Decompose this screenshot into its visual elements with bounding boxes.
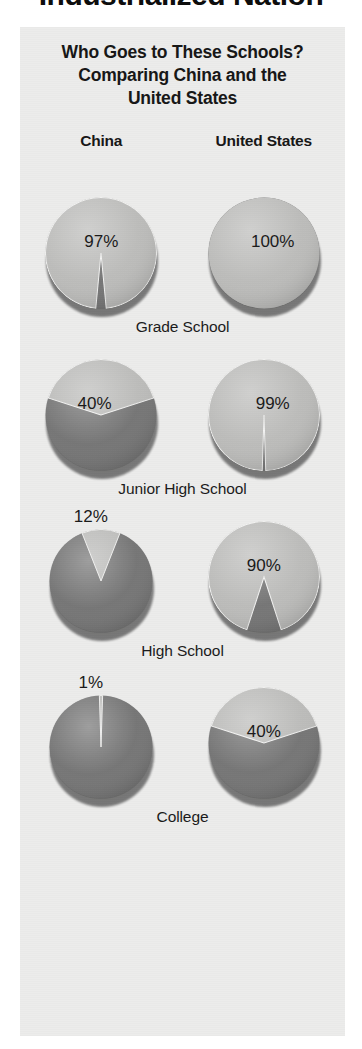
- pie-percent-label: 40%: [247, 722, 281, 742]
- pie-chart-china: 1%: [49, 695, 153, 799]
- pie-disc: [45, 359, 157, 471]
- pie-cell-usa: 99%: [189, 327, 339, 477]
- pie-chart-china: 40%: [45, 359, 157, 471]
- panel-title-line-1: Who Goes to These Schools?: [20, 41, 345, 64]
- pie-percent-label: 100%: [251, 232, 294, 252]
- pie-row: 40%99%Junior High School: [20, 327, 345, 498]
- pie-row: 97%100%Grade School: [20, 165, 345, 336]
- pie-disc: [208, 359, 320, 471]
- pie-disc: [49, 529, 153, 633]
- column-header-china: China: [20, 132, 183, 150]
- pie-disc: [208, 687, 320, 799]
- pie-percent-label: 12%: [74, 507, 108, 527]
- pie-percent-label: 1%: [79, 673, 104, 693]
- pie-cell-usa: 90%: [189, 489, 339, 639]
- pie-percent-label: 99%: [256, 394, 290, 414]
- pie-chart-usa: 100%: [208, 197, 320, 309]
- pie-pair: 40%99%: [20, 327, 345, 477]
- pie-cell-usa: 40%: [189, 655, 339, 805]
- pie-pair: 1%40%: [20, 655, 345, 805]
- pie-percent-label: 97%: [84, 232, 118, 252]
- row-label: College: [20, 808, 345, 826]
- panel-title-line-2: Comparing China and the: [20, 64, 345, 87]
- panel-title-line-3: United States: [20, 87, 345, 110]
- pie-cell-china: 12%: [26, 489, 176, 639]
- pie-cell-china: 1%: [26, 655, 176, 805]
- pie-chart-china: 97%: [45, 197, 157, 309]
- pie-cell-china: 40%: [26, 327, 176, 477]
- column-header-united-states: United States: [183, 132, 346, 150]
- panel-title: Who Goes to These Schools? Comparing Chi…: [20, 41, 345, 110]
- pie-cell-usa: 100%: [189, 165, 339, 315]
- pie-disc: [208, 521, 320, 633]
- pie-percent-label: 40%: [78, 394, 112, 414]
- pie-chart-usa: 90%: [208, 521, 320, 633]
- pie-disc: [45, 197, 157, 309]
- pie-chart-usa: 99%: [208, 359, 320, 471]
- page-headline: Industrialized Nation: [0, 0, 362, 8]
- pie-chart-china: 12%: [49, 529, 153, 633]
- infographic-panel: Who Goes to These Schools? Comparing Chi…: [20, 27, 345, 1036]
- pie-percent-label: 90%: [247, 556, 281, 576]
- pie-cell-china: 97%: [26, 165, 176, 315]
- pie-row: 12%90%High School: [20, 489, 345, 660]
- pie-pair: 97%100%: [20, 165, 345, 315]
- pie-disc: [208, 197, 320, 309]
- pie-row: 1%40%College: [20, 655, 345, 826]
- pie-pair: 12%90%: [20, 489, 345, 639]
- pie-disc: [49, 695, 153, 799]
- pie-chart-usa: 40%: [208, 687, 320, 799]
- column-headers: China United States: [20, 132, 345, 150]
